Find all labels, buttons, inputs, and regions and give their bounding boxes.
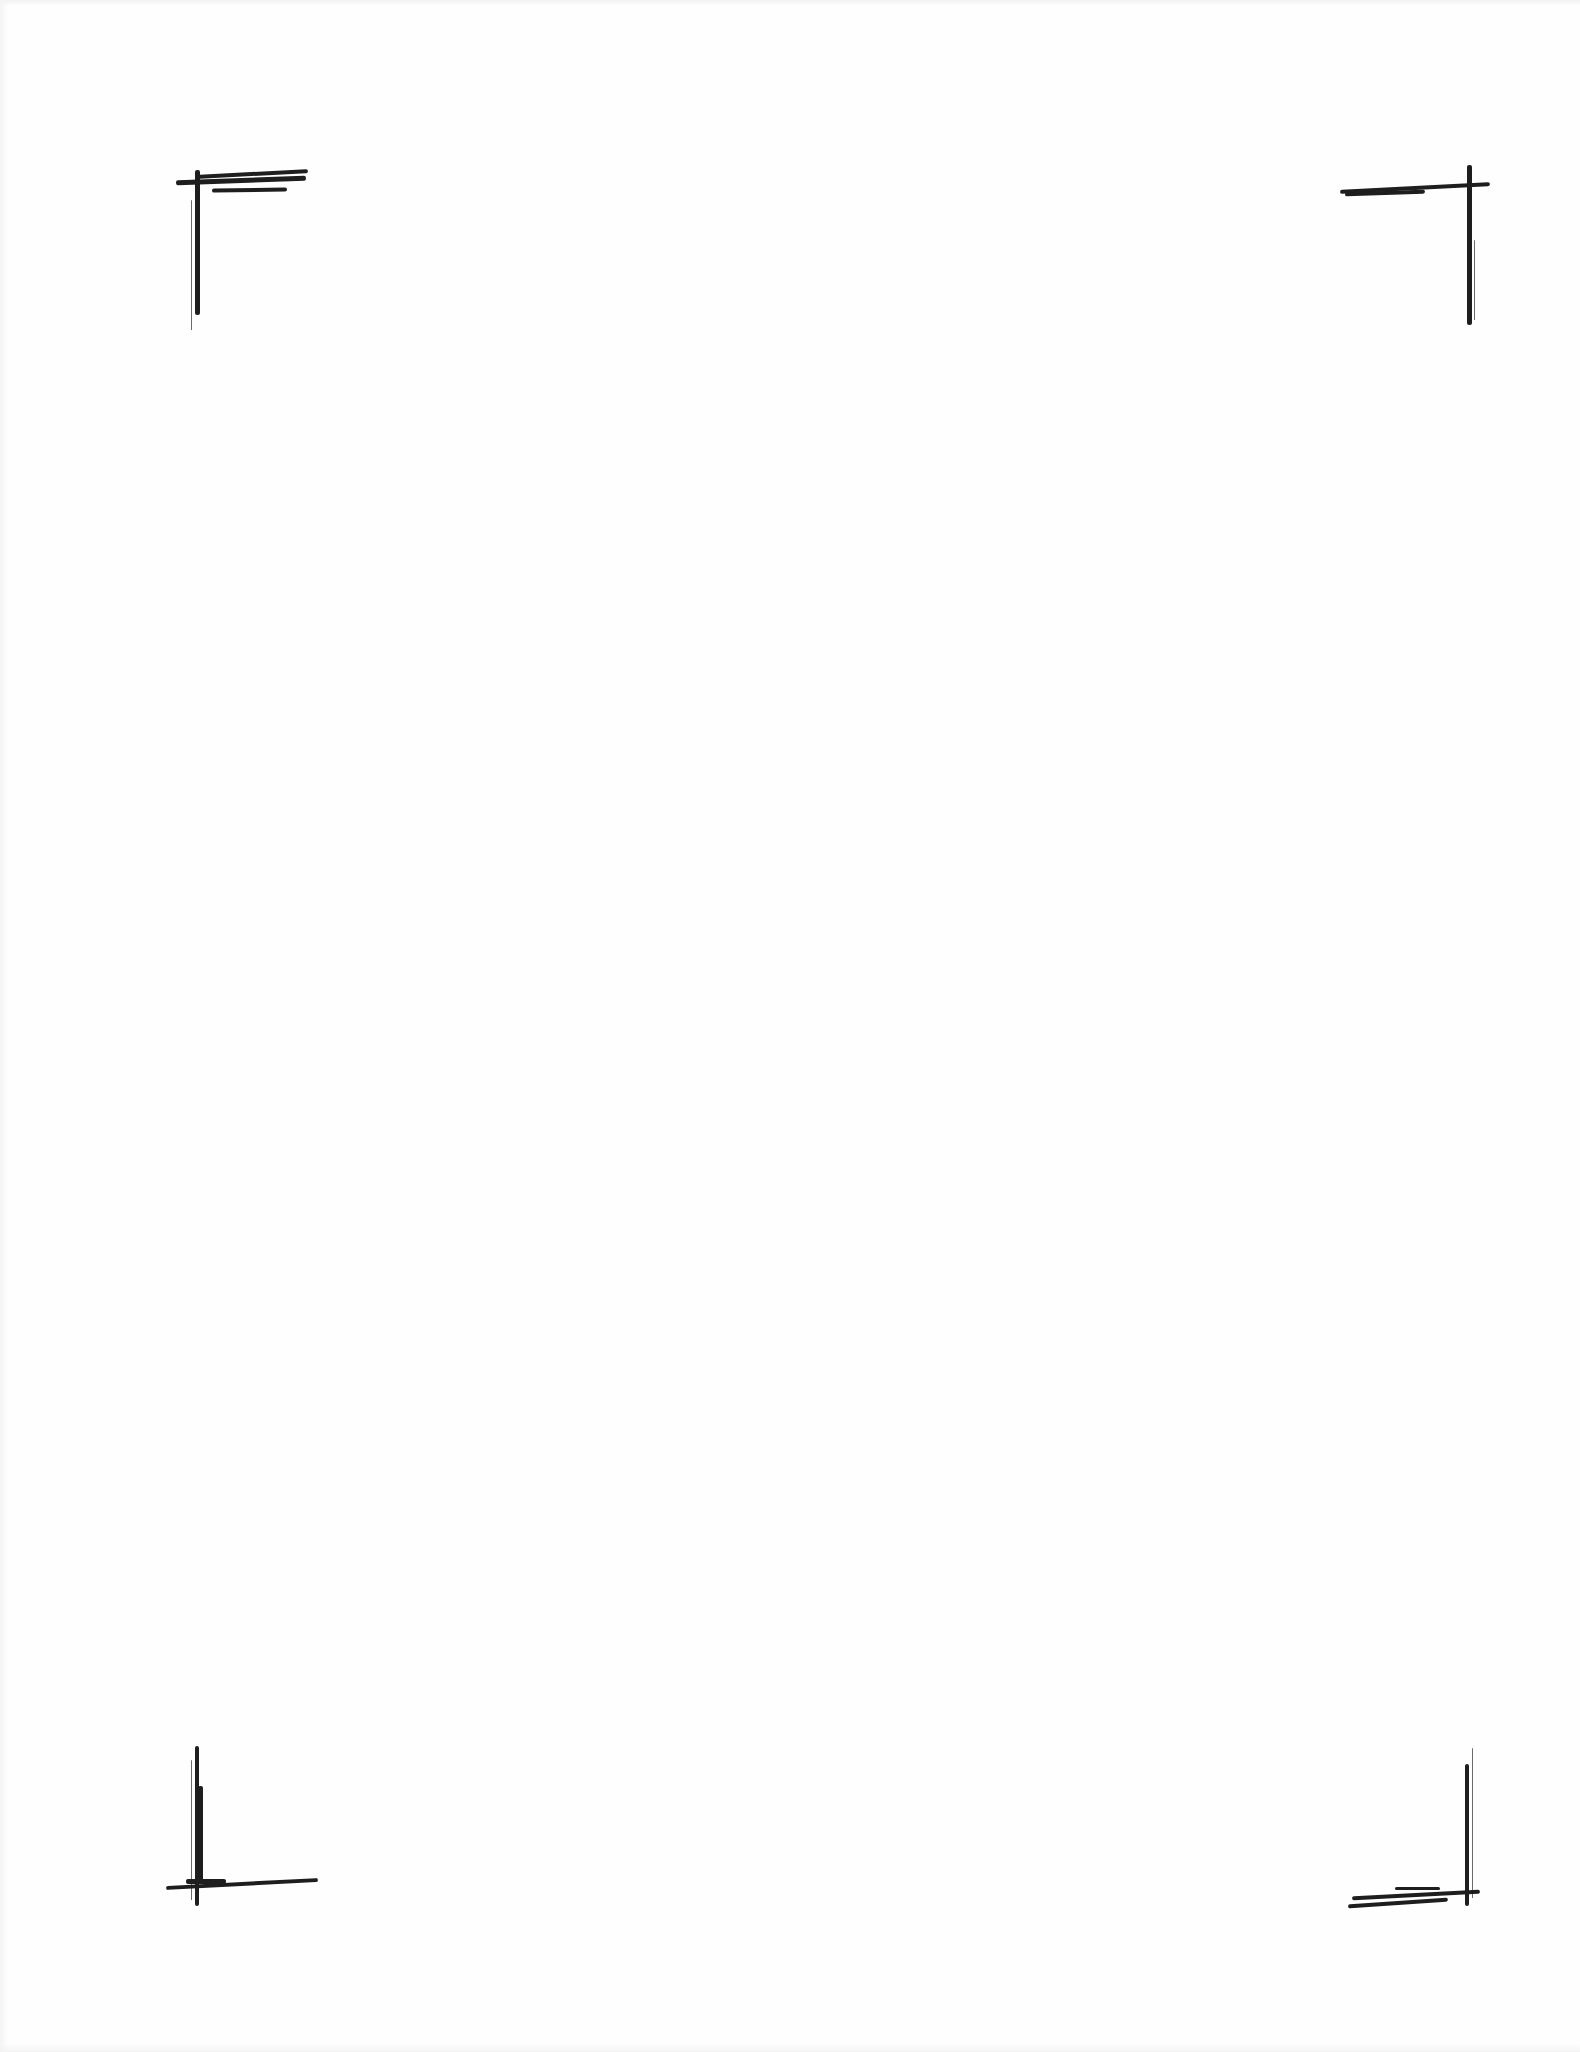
scan-edge-left — [0, 0, 8, 2052]
scan-edge-top — [0, 0, 1580, 6]
scan-edge-bottom — [0, 2044, 1580, 2052]
scanned-page — [0, 0, 1580, 2052]
